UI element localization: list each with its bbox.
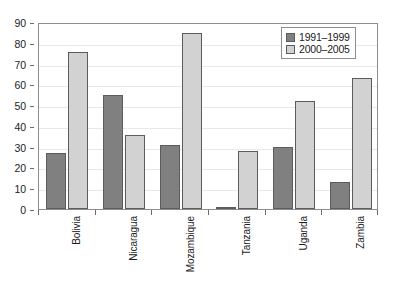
- y-tick-mark: [30, 210, 34, 211]
- legend-swatch-icon: [286, 33, 295, 42]
- y-tick-label: 50: [15, 101, 26, 112]
- y-tick-mark: [30, 189, 34, 190]
- x-tick-label: Uganda: [298, 216, 309, 250]
- y-tick-label: 30: [15, 142, 26, 153]
- y-tick-mark: [30, 85, 34, 86]
- y-tick-mark: [30, 44, 34, 45]
- bar-group: [152, 24, 209, 209]
- y-tick-label: 70: [15, 59, 26, 70]
- bar: [103, 95, 123, 209]
- y-tick-label: 20: [15, 163, 26, 174]
- y-tick-mark: [30, 168, 34, 169]
- y-axis: 0102030405060708090: [0, 23, 34, 210]
- y-tick-mark: [30, 65, 34, 66]
- y-tick-label: 40: [15, 122, 26, 133]
- y-tick-label: 10: [15, 184, 26, 195]
- x-tick-mark: [377, 210, 378, 215]
- bar: [46, 153, 66, 209]
- y-tick-label: 0: [20, 205, 26, 216]
- legend-item: 2000–2005: [286, 43, 350, 55]
- bar: [352, 78, 372, 209]
- x-tick-label: Nicaragua: [128, 216, 139, 261]
- y-tick-label: 80: [15, 39, 26, 50]
- x-tick-label: Tanzania: [241, 216, 252, 255]
- y-tick-mark: [30, 148, 34, 149]
- legend-label: 1991–1999: [299, 32, 350, 43]
- x-tick-label: Bolivia: [71, 216, 82, 245]
- legend-swatch-icon: [286, 45, 295, 54]
- bar: [238, 151, 258, 209]
- bar: [125, 135, 145, 209]
- x-tick-mark: [321, 210, 322, 215]
- y-tick-mark: [30, 106, 34, 107]
- y-tick-label: 60: [15, 80, 26, 91]
- x-tick-mark: [95, 210, 96, 215]
- chart-legend: 1991–19992000–2005: [281, 27, 356, 59]
- x-tick-mark: [151, 210, 152, 215]
- x-tick-label: Mozambique: [185, 216, 196, 272]
- bar-group: [39, 24, 96, 209]
- bar: [295, 101, 315, 209]
- bar-chart: 0102030405060708090 BoliviaNicaraguaMoza…: [0, 0, 397, 289]
- bar-group: [209, 24, 266, 209]
- bar: [182, 33, 202, 209]
- x-axis: BoliviaNicaraguaMozambiqueTanzaniaUganda…: [38, 216, 378, 286]
- bar: [273, 147, 293, 209]
- bar: [68, 52, 88, 209]
- bar: [216, 207, 236, 209]
- bar: [330, 182, 350, 209]
- x-tick-mark: [208, 210, 209, 215]
- y-tick-mark: [30, 23, 34, 24]
- legend-label: 2000–2005: [299, 44, 350, 55]
- bar: [160, 145, 180, 209]
- legend-item: 1991–1999: [286, 31, 350, 43]
- bar-group: [96, 24, 153, 209]
- y-tick-mark: [30, 127, 34, 128]
- y-tick-label: 90: [15, 18, 26, 29]
- x-tick-label: Zambia: [355, 216, 366, 249]
- x-tick-mark: [265, 210, 266, 215]
- x-tick-mark: [38, 210, 39, 215]
